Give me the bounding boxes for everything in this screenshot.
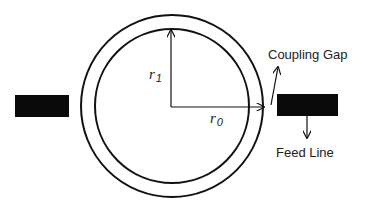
left-feed-bar [15,95,69,117]
feed-line-label: Feed Line [276,145,334,160]
ring-resonator-diagram: r1 r0 Coupling Gap Feed Line [0,0,381,203]
r0-label: r0 [210,110,224,128]
r1-label: r1 [149,66,162,84]
right-feed-bar [277,94,338,116]
coupling-gap-label: Coupling Gap [268,47,348,62]
coupling-gap-arrow [271,67,278,105]
outer-ring [81,15,263,197]
inner-ring [95,29,249,183]
